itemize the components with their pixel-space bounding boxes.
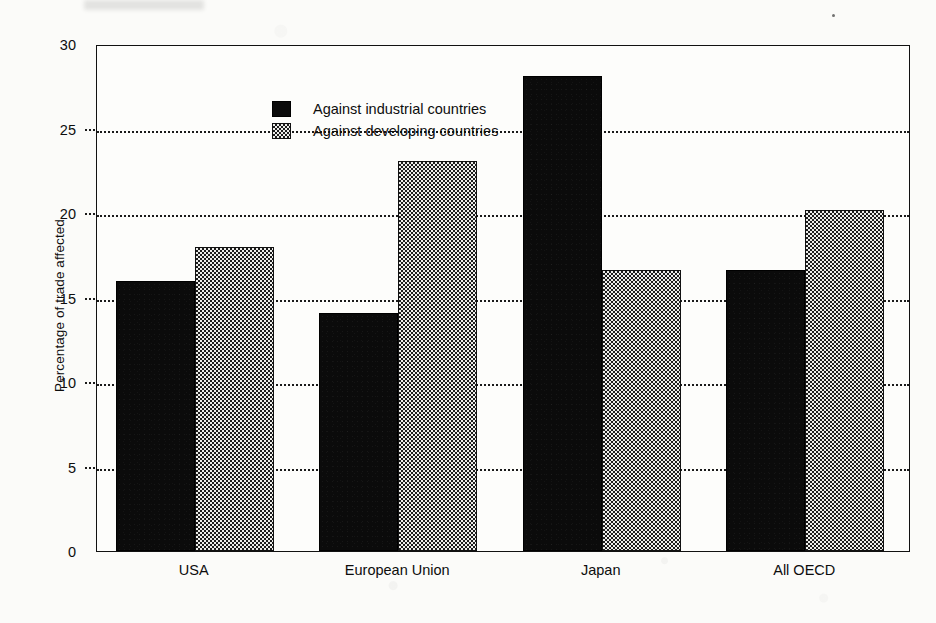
legend-item-label: Against developing countries	[313, 123, 498, 139]
x-axis-tick-label: USA	[115, 562, 273, 578]
chart-figure: Percentage of trade affected 30252015105…	[0, 0, 936, 623]
y-axis-tick-mark	[85, 382, 95, 384]
y-axis-tick-label: 30	[38, 37, 76, 53]
plot-area: Against industrial countries Against dev…	[96, 45, 910, 552]
y-axis-tick-label: 0	[38, 544, 76, 560]
legend-item-industrial: Against industrial countries	[272, 98, 498, 120]
x-axis-tick-label: Japan	[522, 562, 680, 578]
bar-all-oecd-developing	[805, 210, 884, 551]
bar-european-union-developing	[398, 161, 477, 551]
bar-all-oecd-industrial	[726, 270, 805, 551]
bar-usa-industrial	[116, 281, 195, 551]
legend-item-label: Against industrial countries	[313, 101, 486, 117]
scan-artifact-speck	[832, 14, 835, 17]
y-axis-tick-mark	[85, 213, 95, 215]
y-axis-tick-label: 25	[38, 122, 76, 138]
solid-black-swatch-icon	[272, 101, 291, 117]
bar-japan-industrial	[523, 76, 602, 551]
chart-legend: Against industrial countries Against dev…	[272, 98, 498, 142]
legend-item-developing: Against developing countries	[272, 120, 498, 142]
checkerboard-swatch-icon	[272, 123, 291, 139]
y-axis-tick-label: 10	[38, 375, 76, 391]
bar-usa-developing	[195, 247, 274, 551]
y-axis-tick-mark	[85, 467, 95, 469]
scan-artifact-smudge	[84, 0, 204, 10]
x-axis-tick-label: All OECD	[725, 562, 883, 578]
y-axis-tick-mark	[85, 129, 95, 131]
x-axis-tick-label: European Union	[318, 562, 476, 578]
y-axis-tick-mark	[85, 298, 95, 300]
y-axis-tick-label: 5	[38, 460, 76, 476]
bar-group	[97, 46, 909, 551]
y-axis-tick-label: 20	[38, 206, 76, 222]
y-axis-tick-label: 15	[38, 291, 76, 307]
bar-japan-developing	[602, 270, 681, 551]
bar-european-union-industrial	[319, 313, 398, 551]
